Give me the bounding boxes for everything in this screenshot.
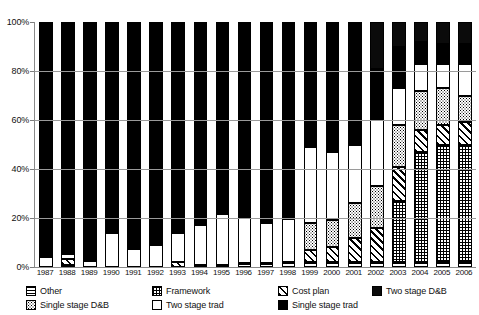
bar-segment[interactable] <box>39 22 53 257</box>
bar-segment[interactable] <box>260 22 274 223</box>
bar-segment[interactable] <box>392 47 406 89</box>
bar-segment[interactable] <box>83 22 97 261</box>
bar-segment[interactable] <box>61 265 75 267</box>
stacked-bar[interactable] <box>370 22 384 267</box>
stacked-bar[interactable] <box>149 22 163 267</box>
stacked-bar[interactable] <box>61 22 75 267</box>
bar-segment[interactable] <box>282 262 296 267</box>
bar-segment[interactable] <box>194 265 208 267</box>
bar-segment[interactable] <box>216 22 230 214</box>
legend-item[interactable]: Single stage trad <box>278 298 358 312</box>
bar-segment[interactable] <box>458 44 472 64</box>
bar-segment[interactable] <box>39 257 53 267</box>
bar-segment[interactable] <box>171 262 185 267</box>
bar-segment[interactable] <box>370 22 384 69</box>
bar-segment[interactable] <box>370 262 384 267</box>
bar-segment[interactable] <box>370 228 384 262</box>
bar-segment[interactable] <box>83 261 97 267</box>
bar-segment[interactable] <box>348 145 362 204</box>
bar-segment[interactable] <box>194 22 208 225</box>
bar-segment[interactable] <box>304 262 318 267</box>
bar-segment[interactable] <box>348 238 362 263</box>
legend-item[interactable]: Single stage D&B <box>26 298 109 312</box>
bar-segment[interactable] <box>149 245 163 267</box>
bar-segment[interactable] <box>348 262 362 267</box>
stacked-bar[interactable] <box>260 22 274 267</box>
bar-segment[interactable] <box>326 247 340 262</box>
bar-segment[interactable] <box>414 130 428 152</box>
stacked-bar[interactable] <box>304 22 318 267</box>
bar-segment[interactable] <box>370 186 384 228</box>
stacked-bar[interactable] <box>414 22 428 267</box>
bar-segment[interactable] <box>238 263 252 267</box>
legend-item[interactable]: Two stage D&B <box>372 284 447 298</box>
bar-segment[interactable] <box>458 145 472 263</box>
bar-segment[interactable] <box>414 262 428 267</box>
bar-segment[interactable] <box>194 225 208 265</box>
bar-segment[interactable] <box>326 152 340 221</box>
bar-segment[interactable] <box>282 219 296 262</box>
bar-segment[interactable] <box>304 22 318 147</box>
bar-segment[interactable] <box>392 22 406 47</box>
stacked-bar[interactable] <box>436 22 450 267</box>
bar-segment[interactable] <box>458 64 472 96</box>
stacked-bar[interactable] <box>238 22 252 267</box>
bar-segment[interactable] <box>392 201 406 262</box>
bar-segment[interactable] <box>171 22 185 233</box>
bar-segment[interactable] <box>216 265 230 267</box>
bar-segment[interactable] <box>414 64 428 91</box>
bar-segment[interactable] <box>171 233 185 262</box>
bar-segment[interactable] <box>326 262 340 267</box>
bar-segment[interactable] <box>458 96 472 123</box>
bar-segment[interactable] <box>348 203 362 237</box>
bar-segment[interactable] <box>458 262 472 267</box>
bar-segment[interactable] <box>326 22 340 152</box>
bar-segment[interactable] <box>304 250 318 262</box>
bar-segment[interactable] <box>127 22 141 249</box>
bar-segment[interactable] <box>436 145 450 263</box>
legend-item[interactable]: Two stage trad <box>152 298 224 312</box>
stacked-bar[interactable] <box>326 22 340 267</box>
stacked-bar[interactable] <box>171 22 185 267</box>
stacked-bar[interactable] <box>39 22 53 267</box>
bar-segment[interactable] <box>348 22 362 145</box>
stacked-bar[interactable] <box>216 22 230 267</box>
bar-segment[interactable] <box>149 22 163 245</box>
stacked-bar[interactable] <box>83 22 97 267</box>
bar-segment[interactable] <box>436 262 450 267</box>
stacked-bar[interactable] <box>458 22 472 267</box>
bar-segment[interactable] <box>414 22 428 42</box>
bar-segment[interactable] <box>414 91 428 130</box>
bar-segment[interactable] <box>61 22 75 254</box>
stacked-bar[interactable] <box>105 22 119 267</box>
bar-segment[interactable] <box>260 263 274 267</box>
stacked-bar[interactable] <box>282 22 296 267</box>
bar-segment[interactable] <box>105 233 119 267</box>
legend-item[interactable]: Framework <box>152 284 210 298</box>
bar-segment[interactable] <box>326 220 340 247</box>
bar-segment[interactable] <box>392 262 406 267</box>
bar-segment[interactable] <box>304 223 318 250</box>
bar-segment[interactable] <box>458 122 472 144</box>
bar-segment[interactable] <box>370 69 384 120</box>
stacked-bar[interactable] <box>348 22 362 267</box>
bar-segment[interactable] <box>370 120 384 186</box>
bar-segment[interactable] <box>238 217 252 264</box>
bar-segment[interactable] <box>105 22 119 233</box>
bar-segment[interactable] <box>436 22 450 44</box>
legend-item[interactable]: Other <box>26 284 62 298</box>
bar-segment[interactable] <box>392 125 406 167</box>
bar-segment[interactable] <box>436 44 450 64</box>
bar-segment[interactable] <box>127 249 141 267</box>
bar-segment[interactable] <box>216 214 230 265</box>
stacked-bar[interactable] <box>127 22 141 267</box>
stacked-bar[interactable] <box>392 22 406 267</box>
legend-item[interactable]: Cost plan <box>278 284 329 298</box>
bar-segment[interactable] <box>260 223 274 263</box>
stacked-bar[interactable] <box>194 22 208 267</box>
bar-segment[interactable] <box>414 42 428 64</box>
bar-segment[interactable] <box>304 147 318 223</box>
bar-segment[interactable] <box>436 64 450 89</box>
bar-segment[interactable] <box>392 167 406 201</box>
bar-segment[interactable] <box>436 125 450 145</box>
